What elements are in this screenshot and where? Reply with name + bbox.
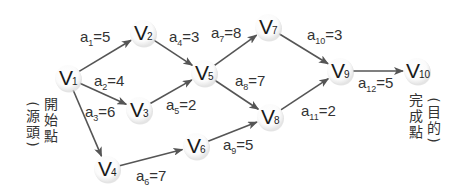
source-label-char: 始 — [43, 112, 59, 128]
close-paren: ) — [430, 132, 438, 148]
node-v10: V10 — [404, 58, 431, 86]
node-v1: V1 — [55, 65, 82, 93]
edge-label-a4: a4=3 — [169, 28, 199, 48]
edge-label-a3: a3=6 — [85, 103, 115, 123]
node-v7: V7 — [255, 14, 282, 42]
source-paren-label: ( 源 頭 ) — [25, 100, 41, 148]
source-label-char: 點 — [43, 128, 59, 144]
edge-label-a9: a9=5 — [223, 136, 253, 156]
edge-label-a10: a10=3 — [307, 26, 342, 46]
edge-label-a12: a12=5 — [358, 74, 393, 94]
open-paren: ( — [430, 92, 438, 108]
source-label-char: 開 — [43, 96, 59, 112]
node-v6: V6 — [183, 133, 210, 161]
sink-label-char: 成 — [408, 108, 424, 124]
edge-label-a11: a11=2 — [301, 102, 336, 122]
sink-paren-label: ( 目 的 ) — [426, 96, 442, 144]
edge-label-a2: a2=4 — [94, 72, 124, 92]
sink-label-char: 點 — [408, 124, 424, 140]
edge-label-a8: a8=7 — [235, 72, 265, 92]
aoe-network-diagram: V1V2V3V4V5V6V7V8V9V10 a1=5a2=4a3=6a4=3a5… — [0, 0, 466, 192]
sink-label-char: 完 — [408, 92, 424, 108]
node-v9: V9 — [327, 58, 354, 86]
node-v4: V4 — [94, 156, 121, 184]
node-v8: V8 — [257, 104, 284, 132]
edge-arrow-a3 — [73, 90, 101, 156]
edge-label-a1: a1=5 — [80, 28, 110, 48]
close-paren: ) — [29, 136, 37, 152]
edge-arrow-a6 — [120, 150, 183, 166]
edge-label-a6: a6=7 — [136, 167, 166, 187]
edge-label-a7: a7=8 — [211, 24, 241, 44]
source-label: 開 始 點 — [43, 96, 59, 144]
node-v3: V3 — [126, 97, 153, 125]
edge-label-a5: a5=2 — [166, 96, 196, 116]
open-paren: ( — [29, 96, 37, 112]
node-v5: V5 — [191, 60, 218, 88]
sink-label: 完 成 點 — [408, 92, 424, 140]
node-v2: V2 — [130, 20, 157, 48]
node-label-v10: V10 — [406, 59, 431, 82]
